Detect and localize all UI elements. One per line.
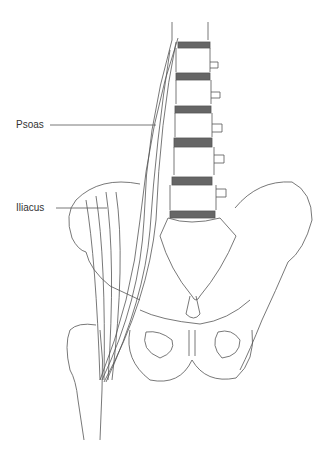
anatomy-diagram: Psoas Iliacus bbox=[0, 0, 325, 450]
pelvis-illustration bbox=[0, 0, 325, 450]
iliacus-label: Iliacus bbox=[16, 202, 44, 213]
psoas-label: Psoas bbox=[16, 119, 44, 130]
